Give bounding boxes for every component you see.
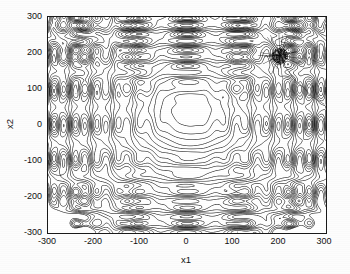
xtick-label-n300: -300: [38, 236, 56, 246]
xtick-label-200: 200: [270, 236, 285, 246]
ytick-label-n200: -200: [12, 191, 42, 201]
xtick-label-100: 100: [224, 236, 239, 246]
ytick-label-n100: -100: [12, 155, 42, 165]
xtick-label-0: 0: [183, 236, 188, 246]
x-axis-label: x1: [181, 254, 191, 265]
plot-area: [47, 16, 327, 234]
contour-canvas: [48, 17, 326, 233]
ytick-label-300: 300: [16, 11, 42, 21]
xtick-label-n200: -200: [84, 236, 102, 246]
y-axis-label: x2: [4, 119, 15, 129]
xtick-label-n100: -100: [130, 236, 148, 246]
ytick-label-100: 100: [16, 83, 42, 93]
xtick-label-300: 300: [316, 236, 331, 246]
ytick-label-0: 0: [16, 119, 42, 129]
ytick-label-200: 200: [16, 47, 42, 57]
figure-panel: 300 200 100 0 -100 -200 -300 -300 -200 -…: [0, 0, 350, 274]
